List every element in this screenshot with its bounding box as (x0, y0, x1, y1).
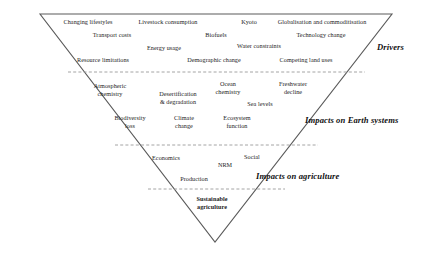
agriculture-node: Production (180, 175, 208, 183)
driver-node: Kyoto (241, 18, 257, 26)
band-label-earth-systems: Impacts on Earth systems (305, 115, 398, 125)
agriculture-node: NRM (218, 161, 232, 169)
driver-node: Livestock consumption (139, 18, 198, 26)
driver-node: Demographic change (187, 56, 241, 64)
sustainable-agriculture-node: Sustainable agriculture (196, 195, 227, 210)
band-label-agriculture: Impacts on agriculture (256, 171, 339, 181)
driver-node: Resource limitations (77, 56, 129, 64)
driver-node: Competing land uses (280, 56, 333, 64)
driver-node: Globalisation and commoditisation (278, 18, 367, 26)
earth-system-node: Biodiversity loss (114, 114, 145, 129)
earth-system-node: Freshwater decline (279, 80, 307, 95)
driver-node: Transport costs (93, 31, 132, 39)
earth-system-node: Atmospheric chemistry (94, 82, 127, 97)
agriculture-node: Social (244, 153, 260, 161)
driver-node: Water constraints (237, 42, 281, 50)
earth-system-node: Ocean chemistry (216, 80, 241, 95)
band-label-drivers: Drivers (377, 42, 404, 52)
driver-node: Biofuels (205, 31, 226, 39)
diagram-canvas: Changing lifestyles Livestock consumptio… (0, 0, 433, 254)
earth-system-node: Sea levels (247, 100, 272, 108)
driver-node: Energy usage (147, 44, 181, 52)
earth-system-node: Desertification & degradation (159, 90, 197, 105)
driver-node: Technology change (296, 31, 345, 39)
earth-system-node: Ecosystem function (223, 114, 250, 129)
earth-system-node: Climate change (174, 114, 194, 129)
driver-node: Changing lifestyles (64, 18, 113, 26)
agriculture-node: Economics (152, 154, 180, 162)
